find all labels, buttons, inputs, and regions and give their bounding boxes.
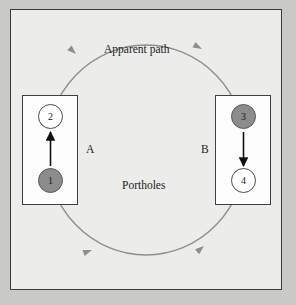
node-4: 4 (231, 168, 256, 193)
node-1: 1 (38, 168, 63, 193)
apparent-path-label: Apparent path (104, 43, 169, 55)
node-3-label: 3 (241, 112, 246, 122)
porthole-b-label: B (201, 143, 209, 155)
node-2: 2 (38, 104, 63, 129)
node-3: 3 (231, 104, 256, 129)
node-2-label: 2 (48, 112, 53, 122)
figure-canvas: 2 1 3 4 Apparent path Portholes A B (0, 0, 296, 305)
porthole-box-a: 2 1 (22, 95, 78, 205)
portholes-label: Portholes (122, 179, 165, 191)
porthole-box-b: 3 4 (215, 95, 271, 205)
node-1-label: 1 (48, 176, 53, 186)
node-4-label: 4 (241, 176, 246, 186)
porthole-a-label: A (86, 143, 94, 155)
